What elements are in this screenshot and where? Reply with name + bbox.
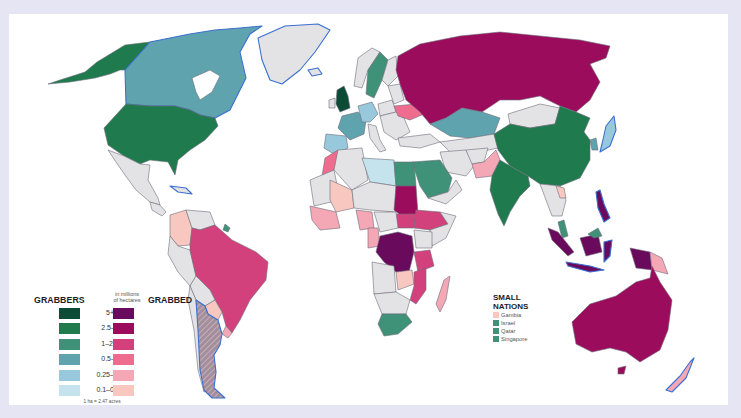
grabbed-swatch <box>113 354 134 365</box>
grabbed-swatch <box>113 385 134 396</box>
grabber-swatch <box>59 354 80 365</box>
country-java <box>566 262 604 272</box>
country-libya <box>362 158 396 186</box>
small-nation-item: Qatar <box>493 327 563 335</box>
country-algeria <box>334 148 368 190</box>
country-egypt <box>394 162 416 186</box>
country-australia <box>572 266 672 362</box>
legend-row: 1–2.5 <box>30 337 170 352</box>
small-nations-title-2: NATIONS <box>493 302 563 311</box>
country-guyana <box>223 224 230 232</box>
small-nations-title-1: SMALL <box>493 293 563 302</box>
country-zambia <box>396 270 414 290</box>
small-nation-item: Singapore <box>493 335 563 343</box>
country-new-zealand <box>666 358 694 392</box>
country-canada <box>125 26 262 118</box>
country-nigeria <box>356 210 374 230</box>
country-madagascar <box>436 276 450 312</box>
country-ireland <box>329 98 335 108</box>
country-kenya-uganda <box>414 230 432 248</box>
legend: GRABBERS in millions of hectares GRABBED… <box>30 291 170 404</box>
country-korea <box>590 138 598 150</box>
grabbed-swatch <box>113 370 134 381</box>
country-iceland <box>308 68 322 76</box>
grabber-swatch <box>59 370 80 381</box>
country-south-africa <box>378 314 412 336</box>
legend-grabbers-title: GRABBERS <box>34 294 85 305</box>
legend-row: 0.25–0.5 <box>30 368 170 383</box>
country-niger-chad <box>352 182 396 212</box>
grabbed-swatch <box>113 323 134 334</box>
swatch <box>493 336 499 342</box>
legend-row: 0.1–0.25 <box>30 383 170 398</box>
country-sudan <box>394 186 418 218</box>
legend-unit: in millions of hectares <box>108 291 146 303</box>
country-borneo <box>580 234 602 256</box>
small-nation-item: Israel <box>493 319 563 327</box>
country-papua-indonesia <box>630 248 652 270</box>
country-central-america <box>150 202 166 216</box>
grabbed-swatch <box>113 308 134 319</box>
grabbed-swatch <box>113 339 134 350</box>
legend-unit-note: 1 ha = 2.47 acres <box>30 399 172 404</box>
legend-row: 0.5–1 <box>30 352 170 367</box>
grabber-swatch <box>59 323 80 334</box>
country-germany <box>358 102 378 122</box>
legend-row: 5+ <box>30 306 170 321</box>
grabber-swatch <box>59 339 80 350</box>
small-nation-item: Gambia <box>493 311 563 319</box>
country-tasmania <box>618 366 626 374</box>
grabber-swatch <box>59 308 80 319</box>
swatch <box>493 312 499 318</box>
country-philippines <box>596 190 610 222</box>
country-cuba <box>170 186 192 194</box>
country-turkey <box>398 134 440 148</box>
swatch <box>493 328 499 334</box>
legend-grabbed-title: GRABBED <box>148 294 192 305</box>
small-nations-key: SMALL NATIONS Gambia Israel Qatar Singap… <box>493 293 563 343</box>
country-japan <box>600 116 616 152</box>
country-russia <box>396 32 610 124</box>
swatch <box>493 320 499 326</box>
legend-row: 2.5–5 <box>30 321 170 336</box>
country-angola <box>372 262 396 294</box>
country-sulawesi <box>604 240 612 262</box>
grabber-swatch <box>59 385 80 396</box>
country-southern-africa <box>374 292 410 314</box>
country-uk <box>336 86 350 112</box>
